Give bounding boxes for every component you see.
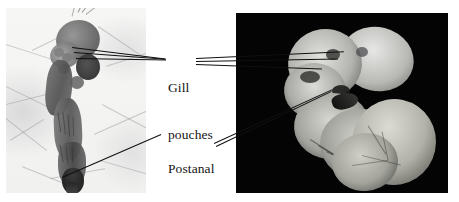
label-postanal-line1: Postanal: [168, 161, 215, 177]
right-embryo-specimen: [236, 13, 448, 193]
left-micrograph-panel: [6, 8, 146, 193]
label-postanal-tail: Postanal tail: [168, 130, 215, 202]
embryo-otic-vesicle: [356, 47, 368, 57]
postanal-tail-point: [66, 182, 78, 193]
gill-pouch-arch: [300, 71, 320, 83]
embryo-comparison-figure: Gill pouches Postanal tail: [0, 0, 459, 202]
left-embryo-specimen: [42, 20, 108, 188]
label-gill-line1: Gill: [168, 80, 213, 96]
right-micrograph-panel: [236, 13, 448, 193]
